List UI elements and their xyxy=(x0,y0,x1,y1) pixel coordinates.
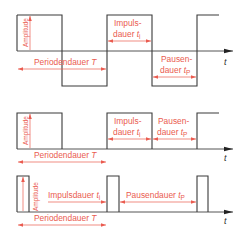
amplitude-label: Amplitude xyxy=(32,182,40,211)
impulse-duration-label-line2: dauer ti xyxy=(113,29,141,40)
waveform-pulse-2 xyxy=(107,176,119,212)
waveform-pulse-3 xyxy=(197,113,219,149)
diagram-symmetric-wave: t Amplitude Impuls- dauer ti Pausen- dau… xyxy=(17,15,233,86)
pause-duration-label-line2: dauer tP xyxy=(160,65,190,76)
time-axis-label: t xyxy=(224,153,227,163)
period-label: Periodendauer T xyxy=(34,213,97,223)
amplitude-label: Amplitude xyxy=(22,116,30,145)
pause-duration-label-line1: Pausen- xyxy=(158,116,189,126)
diagram-narrow-pulse-wave: t Amplitude Impulsdauer ti Pausendauer t… xyxy=(17,176,233,226)
pulse-waveform-diagram: t Amplitude Impuls- dauer ti Pausen- dau… xyxy=(0,0,242,242)
time-axis-label: t xyxy=(224,57,227,67)
pause-duration-label-line1: Pausen- xyxy=(161,54,192,64)
pause-duration-label: Pausendauer tP xyxy=(126,190,185,201)
amplitude-label: Amplitude xyxy=(22,18,30,47)
diagram-unipolar-wave: t Amplitude Impuls- dauer ti Pausen- dau… xyxy=(17,113,233,163)
time-axis-label: t xyxy=(224,216,227,226)
pause-duration-label-line2: dauer tP xyxy=(157,127,187,138)
impulse-duration-label: Impulsdauer ti xyxy=(48,190,100,201)
impulse-duration-label-line1: Impuls- xyxy=(114,116,142,126)
impulse-duration-label-line1: Impuls- xyxy=(114,18,142,28)
waveform-pulse-3 xyxy=(197,176,208,212)
period-label: Periodendauer T xyxy=(34,150,97,160)
period-label: Periodendauer T xyxy=(34,57,97,67)
impulse-duration-label-line2: dauer ti xyxy=(113,127,141,138)
